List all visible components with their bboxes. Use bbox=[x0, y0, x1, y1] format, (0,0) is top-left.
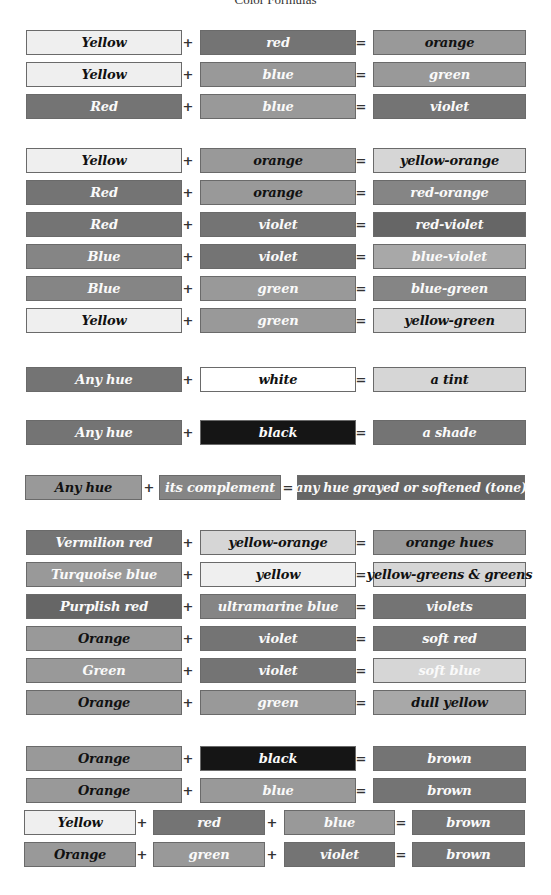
color-term-box: green bbox=[200, 308, 356, 333]
result-box: soft blue bbox=[373, 658, 526, 683]
result-box: a shade bbox=[373, 420, 526, 445]
color-term-box: green bbox=[153, 842, 265, 867]
equals-sign: = bbox=[355, 62, 367, 87]
color-term-box: blue bbox=[284, 810, 395, 835]
plus-sign: + bbox=[266, 842, 278, 867]
formula-row: Red+blue=violet bbox=[0, 94, 551, 119]
plus-sign: + bbox=[182, 244, 194, 269]
result-box: brown bbox=[373, 778, 526, 803]
plus-sign: + bbox=[182, 148, 194, 173]
plus-sign: + bbox=[182, 530, 194, 555]
equals-sign: = bbox=[355, 148, 367, 173]
equals-sign: = bbox=[355, 562, 367, 587]
result-box: yellow-greens & greens bbox=[373, 562, 526, 587]
equals-sign: = bbox=[355, 244, 367, 269]
formula-row: Orange+blue=brown bbox=[0, 778, 551, 803]
result-box: brown bbox=[373, 746, 526, 771]
equals-sign: = bbox=[355, 746, 367, 771]
color-term-box: Any hue bbox=[26, 367, 182, 392]
result-box: green bbox=[373, 62, 526, 87]
color-term-box: Red bbox=[26, 180, 182, 205]
plus-sign: + bbox=[182, 778, 194, 803]
color-term-box: red bbox=[153, 810, 265, 835]
plus-sign: + bbox=[182, 308, 194, 333]
plus-sign: + bbox=[266, 810, 278, 835]
plus-sign: + bbox=[182, 276, 194, 301]
equals-sign: = bbox=[355, 367, 367, 392]
plus-sign: + bbox=[182, 94, 194, 119]
equals-sign: = bbox=[355, 420, 367, 445]
result-box: soft red bbox=[373, 626, 526, 651]
color-term-box: green bbox=[200, 276, 356, 301]
result-box: red-violet bbox=[373, 212, 526, 237]
formula-row: Blue+green=blue-green bbox=[0, 276, 551, 301]
plus-sign: + bbox=[182, 626, 194, 651]
color-term-box: black bbox=[200, 746, 356, 771]
equals-sign: = bbox=[355, 30, 367, 55]
equals-sign: = bbox=[355, 308, 367, 333]
plus-sign: + bbox=[182, 594, 194, 619]
equals-sign: = bbox=[355, 212, 367, 237]
result-box: blue-green bbox=[373, 276, 526, 301]
color-term-box: ultramarine blue bbox=[200, 594, 356, 619]
color-term-box: Yellow bbox=[26, 308, 182, 333]
equals-sign: = bbox=[355, 180, 367, 205]
formula-row: Any hue+white=a tint bbox=[0, 367, 551, 392]
equals-sign: = bbox=[395, 810, 407, 835]
formula-row: Yellow+red+blue=brown bbox=[0, 810, 551, 835]
page-title: Color Formulas bbox=[0, 0, 551, 8]
equals-sign: = bbox=[355, 594, 367, 619]
color-term-box: violet bbox=[284, 842, 395, 867]
result-box: brown bbox=[412, 842, 525, 867]
formula-row: Vermilion red+yellow-orange=orange hues bbox=[0, 530, 551, 555]
result-box: blue-violet bbox=[373, 244, 526, 269]
formula-row: Green+violet=soft blue bbox=[0, 658, 551, 683]
formula-row: Yellow+green=yellow-green bbox=[0, 308, 551, 333]
color-term-box: Yellow bbox=[26, 62, 182, 87]
plus-sign: + bbox=[182, 212, 194, 237]
equals-sign: = bbox=[355, 626, 367, 651]
color-term-box: yellow bbox=[200, 562, 356, 587]
color-term-box: Orange bbox=[26, 626, 182, 651]
equals-sign: = bbox=[355, 778, 367, 803]
color-term-box: blue bbox=[200, 778, 356, 803]
color-term-box: Yellow bbox=[26, 148, 182, 173]
result-box: any hue grayed or softened (tone) bbox=[297, 475, 525, 500]
color-term-box: Any hue bbox=[26, 420, 182, 445]
color-term-box: Orange bbox=[26, 778, 182, 803]
result-box: orange bbox=[373, 30, 526, 55]
plus-sign: + bbox=[182, 30, 194, 55]
plus-sign: + bbox=[136, 842, 148, 867]
color-term-box: violet bbox=[200, 658, 356, 683]
plus-sign: + bbox=[182, 367, 194, 392]
color-term-box: yellow-orange bbox=[200, 530, 356, 555]
equals-sign: = bbox=[355, 690, 367, 715]
color-term-box: Yellow bbox=[26, 30, 182, 55]
result-box: yellow-green bbox=[373, 308, 526, 333]
plus-sign: + bbox=[182, 746, 194, 771]
color-term-box: Blue bbox=[26, 244, 182, 269]
color-term-box: white bbox=[200, 367, 356, 392]
equals-sign: = bbox=[395, 842, 407, 867]
result-box: yellow-orange bbox=[373, 148, 526, 173]
plus-sign: + bbox=[182, 658, 194, 683]
result-box: violet bbox=[373, 94, 526, 119]
formula-row: Orange+green+violet=brown bbox=[0, 842, 551, 867]
color-term-box: Yellow bbox=[24, 810, 136, 835]
color-term-box: blue bbox=[200, 94, 356, 119]
formula-row: Any hue+its complement=any hue grayed or… bbox=[0, 475, 551, 500]
color-term-box: Blue bbox=[26, 276, 182, 301]
equals-sign: = bbox=[355, 658, 367, 683]
equals-sign: = bbox=[355, 530, 367, 555]
formula-row: Red+orange=red-orange bbox=[0, 180, 551, 205]
color-term-box: orange bbox=[200, 148, 356, 173]
formula-row: Yellow+blue=green bbox=[0, 62, 551, 87]
formula-row: Orange+black=brown bbox=[0, 746, 551, 771]
color-term-box: Purplish red bbox=[26, 594, 182, 619]
color-term-box: Any hue bbox=[25, 475, 142, 500]
formula-row: Red+violet=red-violet bbox=[0, 212, 551, 237]
color-term-box: green bbox=[200, 690, 356, 715]
result-box: orange hues bbox=[373, 530, 526, 555]
formula-row: Purplish red+ultramarine blue=violets bbox=[0, 594, 551, 619]
equals-sign: = bbox=[355, 276, 367, 301]
